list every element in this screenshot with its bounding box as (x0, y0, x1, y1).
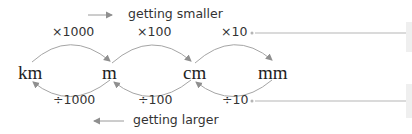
cm-to-mm-arrow (195, 45, 272, 63)
side-note-box-top (406, 22, 412, 52)
unit-km: km (18, 63, 42, 82)
divide-1000-label: ÷1000 (53, 94, 95, 107)
multiply-1000-label: ×1000 (52, 26, 94, 39)
leader-dot-icon (251, 100, 254, 103)
km-to-m-arrow (32, 45, 110, 62)
leader-dot-icon (251, 32, 254, 35)
divide-10-label: ÷10 (222, 94, 248, 107)
getting-smaller-label: getting smaller (128, 8, 223, 21)
unit-mm: mm (258, 63, 288, 82)
getting-larger-label: getting larger (133, 114, 219, 127)
side-note-box-bottom (406, 84, 412, 118)
multiply-100-label: ×100 (137, 26, 171, 39)
unit-cm: cm (183, 63, 206, 82)
m-to-cm-arrow (112, 45, 191, 63)
multiply-10-label: ×10 (221, 26, 247, 39)
unit-m: m (102, 63, 117, 82)
divide-100-label: ÷100 (138, 94, 172, 107)
